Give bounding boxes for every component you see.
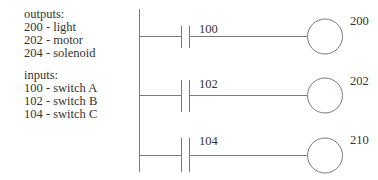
rung-2	[140, 78, 343, 113]
contact-label: 100	[199, 22, 218, 36]
contact-label: 102	[199, 77, 218, 91]
coil-label: 202	[350, 74, 369, 88]
ladder-diagram: 100 102 104 200 202 210	[0, 0, 378, 180]
rung-1	[140, 19, 343, 54]
rung-3	[140, 138, 343, 173]
coil-icon	[308, 78, 343, 113]
coil-icon	[308, 19, 343, 54]
coil-label: 210	[350, 133, 369, 147]
coil-label: 200	[350, 14, 369, 28]
contact-label: 104	[199, 134, 219, 148]
coil-icon	[308, 138, 343, 173]
